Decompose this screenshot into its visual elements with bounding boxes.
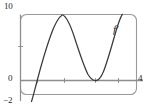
y-axis-min-label: −2 [3, 96, 12, 105]
x-axis-max-label: 4 [138, 74, 142, 83]
derivative-curve [32, 14, 123, 101]
derivative-graph-figure: 10 0 −2 4 f′ [0, 0, 147, 108]
curve-label-f-prime: f′ [113, 24, 118, 35]
y-axis-zero-label: 0 [8, 74, 12, 83]
y-axis-max-label: 10 [4, 2, 13, 11]
plot-canvas [0, 0, 147, 108]
